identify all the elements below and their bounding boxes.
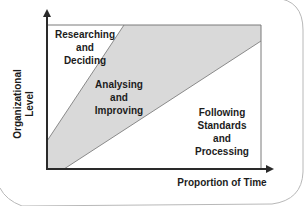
label-line: Level — [24, 62, 36, 146]
region-label-analysing-improving: Analysing and Improving — [84, 78, 154, 117]
y-axis-label: Organizational Level — [12, 62, 36, 146]
label-line: Standards — [186, 119, 258, 132]
label-line: Analysing — [84, 78, 154, 91]
region-label-following-processing: Following Standards and Processing — [186, 106, 258, 158]
label-line: Researching — [49, 28, 121, 41]
label-line: Organizational — [12, 62, 24, 146]
region-label-researching-deciding: Researching and Deciding — [49, 28, 121, 67]
label-line: Improving — [84, 104, 154, 117]
label-line: and — [186, 132, 258, 145]
label-line: and — [84, 91, 154, 104]
diagram-canvas: Researching and Deciding Analysing and I… — [0, 0, 305, 206]
label-line: and — [49, 41, 121, 54]
y-axis-arrow-icon — [43, 9, 51, 17]
x-axis-arrow-icon — [266, 165, 274, 173]
label-line: Deciding — [49, 54, 121, 67]
label-line: Processing — [186, 145, 258, 158]
x-axis-label: Proportion of Time — [172, 176, 272, 189]
label-line: Following — [186, 106, 258, 119]
